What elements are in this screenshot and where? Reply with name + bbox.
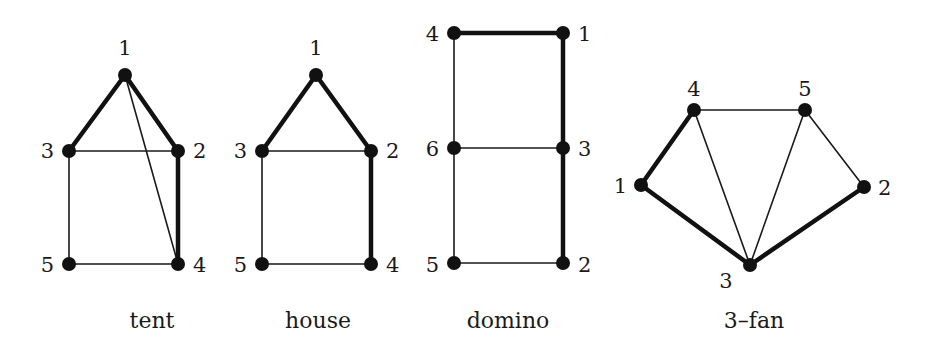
vertex-4 (364, 257, 378, 271)
vertex-2 (857, 180, 871, 194)
vertex-label: 3 (719, 269, 732, 293)
edge-1-4 (125, 75, 178, 264)
vertex-label: 2 (386, 139, 399, 163)
vertex-label: 1 (578, 22, 591, 46)
vertex-5 (447, 256, 461, 270)
vertex-label: 4 (193, 253, 206, 277)
graph-domino: 123456domino (426, 22, 592, 333)
vertex-label: 2 (878, 176, 891, 200)
vertex-4 (687, 103, 701, 117)
vertex-1 (556, 26, 570, 40)
vertex-label: 1 (614, 174, 627, 198)
edge-1-3 (69, 75, 125, 151)
edge-5-2 (805, 110, 864, 187)
vertex-label: 5 (426, 253, 439, 277)
vertex-label: 3 (578, 137, 591, 161)
vertex-label: 5 (41, 253, 54, 277)
vertex-5 (62, 257, 76, 271)
graph-caption: house (285, 308, 351, 333)
vertex-label: 2 (193, 139, 206, 163)
vertex-1 (118, 68, 132, 82)
edge-1-4 (641, 110, 694, 185)
edge-1-3 (262, 75, 316, 151)
vertex-3 (255, 144, 269, 158)
vertex-label: 5 (798, 77, 811, 101)
vertex-label: 3 (234, 139, 247, 163)
edge-1-2 (125, 75, 178, 151)
vertex-3 (62, 144, 76, 158)
vertex-2 (171, 144, 185, 158)
graph-tent: 12345tent (41, 36, 207, 333)
vertex-label: 3 (41, 139, 54, 163)
vertex-label: 1 (309, 36, 322, 60)
vertex-2 (364, 144, 378, 158)
vertex-4 (447, 26, 461, 40)
vertex-label: 4 (386, 253, 399, 277)
graph-figure: 12345tent 12345house 123456domino 123453… (0, 0, 937, 355)
vertex-label: 4 (426, 22, 439, 46)
vertex-1 (309, 68, 323, 82)
vertex-3 (556, 141, 570, 155)
vertex-4 (171, 257, 185, 271)
vertex-5 (798, 103, 812, 117)
graph-caption: 3–fan (724, 308, 784, 333)
vertex-2 (556, 256, 570, 270)
graph-caption: tent (130, 308, 175, 333)
edge-1-2 (316, 75, 371, 151)
vertex-3 (743, 258, 757, 272)
graph-house: 12345house (234, 36, 400, 333)
vertex-label: 2 (578, 253, 591, 277)
edge-3-2 (750, 187, 864, 265)
graph-3-fan: 123453–fan (614, 77, 892, 333)
vertex-6 (447, 141, 461, 155)
vertex-label: 6 (426, 137, 439, 161)
graph-caption: domino (467, 308, 550, 333)
edge-5-3 (750, 110, 805, 265)
vertex-5 (255, 257, 269, 271)
edge-1-3 (641, 185, 750, 265)
vertex-1 (634, 178, 648, 192)
vertex-label: 4 (687, 77, 700, 101)
vertex-label: 5 (234, 253, 247, 277)
vertex-label: 1 (118, 36, 131, 60)
